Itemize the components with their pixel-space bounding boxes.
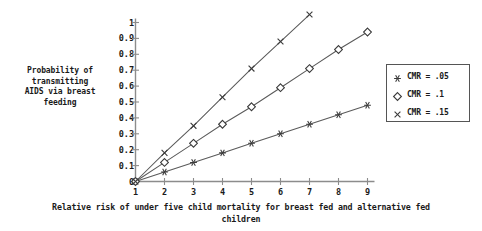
- x-axis-tick-label: 3: [187, 187, 201, 197]
- legend: CMR = .05 CMR = .1 CMR = .15: [386, 64, 470, 122]
- legend-item-label: CMR = .05: [407, 72, 449, 81]
- chart-figure: Probability of transmitting AIDS via bre…: [0, 0, 482, 231]
- x-axis-tick-label: 2: [158, 187, 172, 197]
- x-axis-tick-label: 5: [245, 187, 259, 197]
- diamond-marker-icon: [219, 120, 227, 128]
- legend-item-label: CMR = .15: [407, 108, 449, 117]
- asterisk-marker-icon: [391, 70, 404, 83]
- legend-item-label: CMR = .1: [407, 90, 444, 99]
- legend-item-cmr-015: CMR = .15: [391, 104, 449, 120]
- x-axis-tick-label: 9: [361, 187, 375, 197]
- x-axis-title-line: children: [0, 213, 482, 225]
- diamond-marker-icon: [190, 139, 198, 147]
- x-axis-tick-label: 6: [274, 187, 288, 197]
- legend-item-cmr-01: CMR = .1: [391, 86, 444, 102]
- diamond-marker-icon: [277, 84, 285, 92]
- data-series: [132, 102, 371, 185]
- x-axis-title-line: Relative risk of under five child mortal…: [0, 201, 482, 213]
- diamond-marker-icon: [248, 103, 256, 111]
- x-axis-tick-label: 8: [332, 187, 346, 197]
- cross-marker-icon: [391, 106, 404, 119]
- x-axis-title: Relative risk of under five child mortal…: [0, 201, 482, 225]
- legend-item-cmr-005: CMR = .05: [391, 68, 449, 84]
- diamond-marker-icon: [161, 159, 169, 167]
- diamond-marker-icon: [391, 88, 404, 101]
- x-axis-tick-label: 4: [216, 187, 230, 197]
- diamond-marker-icon: [364, 28, 372, 36]
- data-series: [132, 28, 372, 185]
- x-axis-tick-label: 7: [303, 187, 317, 197]
- x-axis-tick-labels: 123456789: [0, 187, 482, 199]
- diamond-marker-icon: [394, 92, 402, 100]
- diamond-marker-icon: [335, 46, 343, 54]
- x-axis-tick-label: 1: [129, 187, 143, 197]
- data-series: [133, 12, 313, 185]
- diamond-marker-icon: [306, 65, 314, 73]
